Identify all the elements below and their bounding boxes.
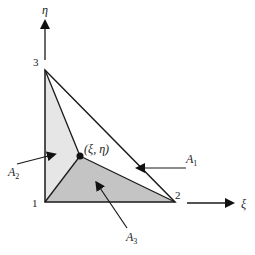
interior-point (77, 153, 84, 160)
area-label-a2: A2 (7, 165, 19, 181)
interior-point-label: (ξ, η) (84, 142, 109, 156)
area-label-a1: A1 (185, 152, 197, 168)
eta-axis-label: η (42, 3, 48, 17)
triangle-diagram: η ξ 3 1 2 (ξ, η) A1 A2 A3 (0, 0, 255, 255)
vertex-label-2: 2 (175, 189, 181, 201)
area-label-a3: A3 (125, 230, 137, 246)
vertex-label-1: 1 (32, 197, 38, 209)
vertex-label-3: 3 (33, 56, 39, 68)
xi-axis-label: ξ (241, 197, 247, 211)
